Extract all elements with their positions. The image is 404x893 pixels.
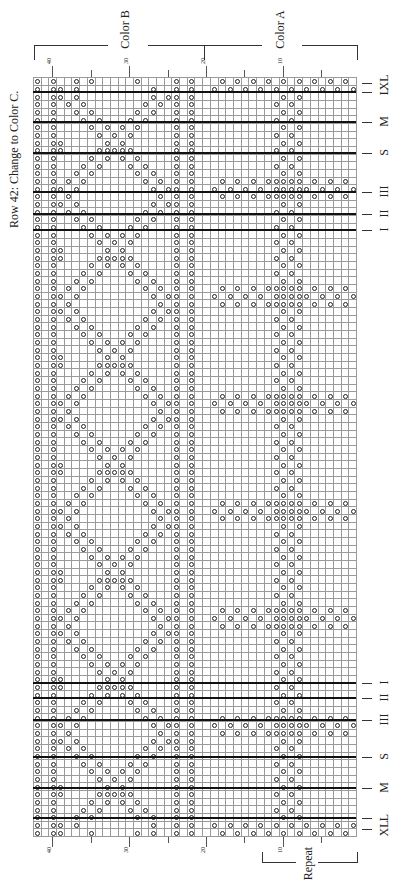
yarn-over-symbol xyxy=(174,325,179,330)
yarn-over-symbol xyxy=(51,371,56,376)
yarn-over-symbol xyxy=(189,739,194,744)
yarn-over-symbol xyxy=(51,271,56,276)
yarn-over-symbol xyxy=(51,386,56,391)
yarn-over-symbol xyxy=(74,110,79,115)
yarn-over-symbol xyxy=(120,685,125,690)
yarn-over-symbol xyxy=(51,286,56,291)
yarn-over-symbol xyxy=(297,601,302,606)
yarn-over-symbol xyxy=(174,202,179,207)
yarn-over-symbol xyxy=(266,394,271,399)
yarn-over-symbol xyxy=(189,624,194,629)
size-line-ii xyxy=(33,213,356,215)
size-tick xyxy=(362,683,372,684)
yarn-over-symbol xyxy=(97,670,102,675)
yarn-over-symbol xyxy=(251,179,256,184)
yarn-over-symbol xyxy=(128,440,133,445)
column-number: 30 xyxy=(123,58,129,64)
yarn-over-symbol xyxy=(343,302,348,307)
yarn-over-symbol xyxy=(128,670,133,675)
yarn-over-symbol xyxy=(143,593,148,598)
yarn-over-symbol xyxy=(35,463,40,468)
yarn-over-symbol xyxy=(266,731,271,736)
yarn-over-symbol xyxy=(66,639,71,644)
yarn-over-symbol xyxy=(105,570,110,575)
yarn-over-symbol xyxy=(120,570,125,575)
yarn-over-symbol xyxy=(51,463,56,468)
yarn-over-symbol xyxy=(151,739,156,744)
yarn-over-symbol xyxy=(189,164,194,169)
yarn-over-symbol xyxy=(51,831,56,836)
yarn-over-symbol xyxy=(120,256,125,261)
yarn-over-symbol xyxy=(51,547,56,552)
yarn-over-symbol xyxy=(143,532,148,537)
yarn-over-symbol xyxy=(289,532,294,537)
yarn-over-symbol xyxy=(251,624,256,629)
yarn-over-symbol xyxy=(105,769,110,774)
yarn-over-symbol xyxy=(220,394,225,399)
yarn-over-symbol xyxy=(66,317,71,322)
size-label-s: S xyxy=(377,745,392,769)
yarn-over-symbol xyxy=(35,555,40,560)
yarn-over-symbol xyxy=(128,792,133,797)
yarn-over-symbol xyxy=(274,777,279,782)
size-tick xyxy=(362,788,372,789)
yarn-over-symbol xyxy=(97,486,102,491)
yarn-over-symbol xyxy=(74,325,79,330)
size-line-l xyxy=(33,817,356,819)
yarn-over-symbol xyxy=(51,233,56,238)
yarn-over-symbol xyxy=(312,624,317,629)
yarn-over-symbol xyxy=(328,302,333,307)
yarn-over-symbol xyxy=(235,394,240,399)
yarn-over-symbol xyxy=(174,133,179,138)
yarn-over-symbol xyxy=(151,95,156,100)
yarn-over-symbol xyxy=(274,271,279,276)
yarn-over-symbol xyxy=(35,279,40,284)
yarn-over-symbol xyxy=(297,478,302,483)
size-label-l: L xyxy=(377,80,392,104)
yarn-over-symbol xyxy=(151,217,156,222)
yarn-over-symbol xyxy=(51,800,56,805)
yarn-over-symbol xyxy=(74,386,79,391)
yarn-over-symbol xyxy=(220,409,225,414)
yarn-over-symbol xyxy=(105,800,110,805)
yarn-over-symbol xyxy=(258,509,263,514)
yarn-over-symbol xyxy=(151,601,156,606)
yarn-over-symbol xyxy=(174,547,179,552)
yarn-over-symbol xyxy=(289,179,294,184)
yarn-over-symbol xyxy=(220,501,225,506)
yarn-over-symbol xyxy=(251,194,256,199)
yarn-over-symbol xyxy=(128,133,133,138)
yarn-over-symbol xyxy=(174,110,179,115)
yarn-over-symbol xyxy=(174,164,179,169)
yarn-over-symbol xyxy=(128,271,133,276)
yarn-over-symbol xyxy=(51,616,56,621)
yarn-over-symbol xyxy=(51,194,56,199)
yarn-over-symbol xyxy=(35,371,40,376)
yarn-over-symbol xyxy=(135,555,140,560)
yarn-over-symbol xyxy=(189,486,194,491)
yarn-over-symbol xyxy=(320,509,325,514)
yarn-over-symbol xyxy=(174,141,179,146)
yarn-over-symbol xyxy=(289,294,294,299)
yarn-over-symbol xyxy=(128,547,133,552)
yarn-over-symbol xyxy=(274,624,279,629)
yarn-over-symbol xyxy=(228,823,233,828)
yarn-over-symbol xyxy=(51,348,56,353)
column-number: 20 xyxy=(200,58,206,64)
yarn-over-symbol xyxy=(51,409,56,414)
yarn-over-symbol xyxy=(251,79,256,84)
yarn-over-symbol xyxy=(51,685,56,690)
yarn-over-symbol xyxy=(266,179,271,184)
yarn-over-symbol xyxy=(120,141,125,146)
yarn-over-symbol xyxy=(174,593,179,598)
size-tick xyxy=(362,192,372,193)
yarn-over-symbol xyxy=(143,179,148,184)
yarn-over-symbol xyxy=(297,417,302,422)
yarn-over-symbol xyxy=(51,501,56,506)
yarn-over-symbol xyxy=(174,463,179,468)
yarn-over-symbol xyxy=(66,624,71,629)
yarn-over-symbol xyxy=(297,233,302,238)
yarn-over-symbol xyxy=(335,509,340,514)
yarn-over-symbol xyxy=(274,133,279,138)
yarn-over-symbol xyxy=(274,532,279,537)
